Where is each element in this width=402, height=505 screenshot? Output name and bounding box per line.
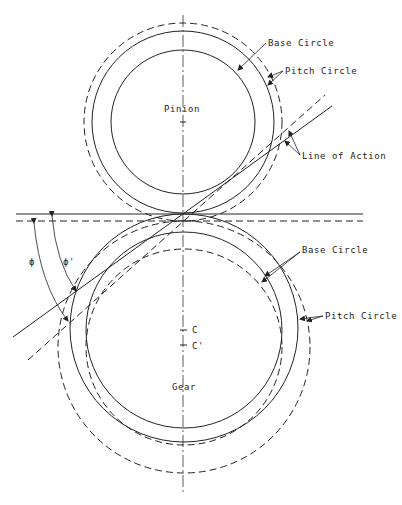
pinion-base-circle-label: Base Circle: [268, 38, 334, 48]
phi-label: ϕ: [29, 257, 35, 267]
gear: [58, 214, 310, 473]
gear-center-c-prime-label: C': [192, 341, 204, 351]
line-of-action-leader-a: [289, 131, 300, 155]
gear-base-circle-label: Base Circle: [302, 245, 368, 255]
gear-label: Gear: [172, 382, 196, 392]
gear-center-c-label: C: [192, 325, 198, 335]
pinion-pitch-circle-leader-b: [268, 71, 283, 85]
gear-pitch-circle: [70, 214, 298, 442]
line-of-action-leader-b: [285, 141, 300, 155]
gear-base-circle-leader-b: [262, 252, 300, 282]
gear-diagram: ϕ ϕ' Pinion Base Circle Pitch Circle Lin…: [0, 0, 402, 505]
gear-pitch-circle-leader-a: [300, 316, 323, 319]
phi-angle-arc: [34, 223, 68, 321]
phi-prime-angle-arc: [52, 216, 76, 291]
phi-prime-label: ϕ': [63, 257, 75, 267]
pinion-base-circle-leader: [238, 43, 266, 70]
gear-pitch-circle-shifted: [58, 221, 310, 473]
line-of-action-shifted: [28, 95, 325, 360]
pinion-pitch-circle-label: Pitch Circle: [285, 66, 357, 76]
line-of-action-label: Line of Action: [302, 151, 386, 161]
gear-pitch-circle-label: Pitch Circle: [325, 311, 397, 321]
gear-base-circle-shifted: [86, 249, 282, 445]
pinion-pitch-circle-leader-a: [268, 71, 283, 77]
pinion-label: Pinion: [164, 104, 200, 114]
